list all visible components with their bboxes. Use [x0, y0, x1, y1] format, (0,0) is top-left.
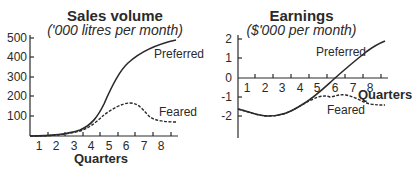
x-tick-label: 2: [53, 139, 60, 153]
sales-volume-plot: 500 400 300 200 100 1 2 3 4 5 6 7 8 Quar…: [0, 0, 210, 171]
preferred-label: Preferred: [316, 45, 366, 59]
earnings-plot: 2 1 0 -1 -2 1 2 3 4 5 6 7 8 Quarters Pre…: [210, 0, 417, 171]
feared-label: Feared: [327, 103, 365, 117]
y-tick-label: 500: [7, 31, 27, 45]
y-tick-label: 2: [225, 32, 232, 46]
x-tick-label: 1: [36, 139, 43, 153]
y-tick-label: -1: [221, 90, 232, 104]
earnings-chart: Earnings ($'000 per month): [210, 0, 417, 171]
y-tick-label: 1: [225, 51, 232, 65]
x-axis-label: Quarters: [358, 87, 412, 102]
x-tick-label: 2: [262, 81, 269, 95]
y-tick-label: -2: [221, 109, 232, 123]
x-tick-label: 7: [350, 81, 357, 95]
y-tick-label: 0: [225, 71, 232, 85]
x-axis-label: Quarters: [74, 151, 128, 166]
x-tick-label: 4: [297, 81, 304, 95]
y-tick-label: 300: [7, 70, 27, 84]
x-tick-label: 1: [244, 81, 251, 95]
x-tick-label: 6: [332, 81, 339, 95]
y-tick-label: 200: [7, 89, 27, 103]
preferred-label: Preferred: [154, 47, 204, 61]
y-tick-label: 400: [7, 50, 27, 64]
x-tick-label: 3: [279, 81, 286, 95]
feared-label: Feared: [159, 105, 197, 119]
x-tick-label: 8: [158, 139, 165, 153]
sales-volume-chart: Sales volume ('000 litres per month): [0, 0, 210, 171]
feared-line: [30, 103, 176, 136]
y-tick-label: 100: [7, 109, 27, 123]
x-tick-label: 7: [141, 139, 148, 153]
